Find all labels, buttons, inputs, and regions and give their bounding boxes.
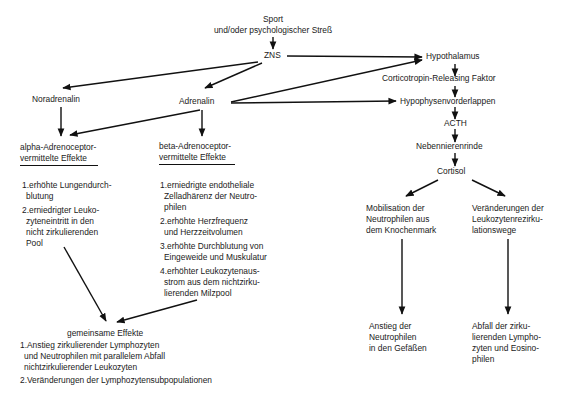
node-hypothalamus: Hypothalamus <box>426 51 480 62</box>
node-crf: Corticotropin-Releasing Faktor <box>382 73 496 84</box>
trigger-line-1: Sport <box>210 14 336 25</box>
beta-effect-4: 4.erhöhter Leukozytenaus- strom aus dem … <box>160 266 290 299</box>
edge-alpha-gemeinsam <box>64 247 106 321</box>
common-effect-2-line-1: Veränderungen der Lymphozytensubpopulati… <box>27 375 212 385</box>
trigger-line-2: und/oder psychologischer Streß <box>210 25 336 36</box>
rezirkulation-line-2: Leukozytenrezirku- <box>472 214 544 225</box>
node-cortisol: Cortisol <box>437 166 465 177</box>
abfall-line-3: zyten und Eosino- <box>472 343 541 354</box>
alpha-effect-1-num: 1. <box>22 180 29 190</box>
beta-effect-2-line-1: erhöhte Herzfrequenz <box>167 216 248 226</box>
edge-zns-hypothalamus <box>287 56 422 57</box>
alpha-effect-2-line-4: Pool <box>22 238 122 249</box>
beta-effect-4-line-2: strom aus dem nichtzirku- <box>160 277 290 288</box>
rezirkulation-line-3: lationswege <box>472 225 544 236</box>
common-effect-2-num: 2. <box>20 375 27 385</box>
beta-effect-1-num: 1. <box>160 180 167 190</box>
edge-cortisol-mobilisation <box>406 180 438 196</box>
abfall-line-2: lierenden Lympho- <box>472 332 541 343</box>
beta-header-line-1: beta-Adrenoceptor- <box>159 141 235 152</box>
node-nnr: Nebennierenrinde <box>416 141 483 152</box>
beta-effect-3: 3.erhöhte Durchblutung von Eingeweide un… <box>160 241 290 263</box>
abfall-line-1: Abfall der zirku- <box>472 321 541 332</box>
alpha-effect-1-line-2: blutung <box>22 191 122 202</box>
anstieg-line-2: Neutrophilen <box>369 332 427 343</box>
alpha-effect-1-line-1: erhöhte Lungendurch- <box>29 180 111 190</box>
alpha-effects-list: 1.erhöhte Lungendurch- blutung 2.erniedr… <box>22 180 122 252</box>
alpha-header-line-1: alpha-Adrenoceptor- <box>20 142 98 153</box>
node-hvl: Hypophysenvorderlappen <box>400 96 495 107</box>
alpha-effect-2-num: 2. <box>22 205 29 215</box>
alpha-header-line-2: vermittelte Effekte <box>20 153 98 164</box>
common-effect-1-line-3: nichtzirkulierender Leukozyten <box>20 362 250 373</box>
mobilisation-line-1: Mobilisation der <box>366 203 436 214</box>
node-zns: ZNS <box>264 50 281 61</box>
beta-effect-1: 1.erniedrigte endotheliale Zelladhärenz … <box>160 180 290 213</box>
alpha-effect-2-line-3: nicht zirkulierenden <box>22 227 122 238</box>
common-effect-1-line-1: Anstieg zirkulierender Lymphozyten <box>27 340 159 350</box>
node-beta-header: beta-Adrenoceptor- vermittelte Effekte <box>159 141 235 165</box>
anstieg-line-3: in den Gefäßen <box>369 343 427 354</box>
beta-effect-1-line-1: erniedrigte endotheliale <box>167 180 254 190</box>
edge-adrenalin-alpha <box>70 110 200 135</box>
beta-effect-3-num: 3. <box>160 241 167 251</box>
common-effect-2: 2.Veränderungen der Lymphozytensubpopula… <box>20 375 250 386</box>
beta-effect-2-line-2: und Herzzeitvolumen <box>160 227 290 238</box>
beta-effect-2: 2.erhöhte Herzfrequenz und Herzzeitvolum… <box>160 216 290 238</box>
common-effect-1: 1.Anstieg zirkulierender Lymphozyten und… <box>20 340 250 373</box>
common-effect-1-num: 1. <box>20 340 27 350</box>
beta-effects-list: 1.erniedrigte endotheliale Zelladhärenz … <box>160 180 290 302</box>
edge-beta-gemeinsam <box>117 300 197 322</box>
node-mobilisation: Mobilisation der Neutrophilen aus dem Kn… <box>366 203 436 236</box>
beta-effect-3-line-2: Eingeweide und Muskulatur <box>160 252 290 263</box>
beta-effect-3-line-1: erhöhte Durchblutung von <box>167 241 263 251</box>
node-adrenalin: Adrenalin <box>179 96 214 107</box>
node-abfall: Abfall der zirku- lierenden Lympho- zyte… <box>472 321 541 365</box>
beta-effect-1-line-3: philen <box>160 202 290 213</box>
node-acth: ACTH <box>444 118 467 129</box>
common-effects-list: 1.Anstieg zirkulierender Lymphozyten und… <box>20 340 250 389</box>
node-rezirkulation: Veränderungen der Leukozytenrezirku- lat… <box>472 203 544 236</box>
beta-effect-1-line-2: Zelladhärenz der Neutro- <box>160 191 290 202</box>
mobilisation-line-3: dem Knochenmark <box>366 225 436 236</box>
node-trigger: Sport und/oder psychologischer Streß <box>210 14 336 36</box>
alpha-effect-1: 1.erhöhte Lungendurch- blutung <box>22 180 122 202</box>
rezirkulation-line-1: Veränderungen der <box>472 203 544 214</box>
alpha-effect-2-line-2: zyteneintritt in den <box>22 216 122 227</box>
alpha-effect-2: 2.erniedrigter Leuko- zyteneintritt in d… <box>22 205 122 249</box>
common-effects-title: gemeinsame Effekte <box>67 328 143 339</box>
edge-adrenalin-hvl <box>231 101 396 103</box>
edge-zns-adrenalin <box>205 63 262 88</box>
common-effect-1-line-2: und Neutrophilen mit parallelem Abfall <box>20 351 250 362</box>
beta-effect-4-line-1: erhöhter Leukozytenaus- <box>167 266 260 276</box>
abfall-line-4: philen <box>472 354 541 365</box>
edge-cortisol-rezirkulation <box>472 180 505 196</box>
node-anstieg: Anstieg der Neutrophilen in den Gefäßen <box>369 321 427 354</box>
beta-header-line-2: vermittelte Effekte <box>159 152 235 163</box>
node-alpha-header: alpha-Adrenoceptor- vermittelte Effekte <box>20 142 98 166</box>
mobilisation-line-2: Neutrophilen aus <box>366 214 436 225</box>
beta-effect-2-num: 2. <box>160 216 167 226</box>
anstieg-line-1: Anstieg der <box>369 321 427 332</box>
beta-effect-4-line-3: lierenden Milzpool <box>160 288 290 299</box>
alpha-effect-2-line-1: erniedrigter Leuko- <box>29 205 99 215</box>
beta-effect-4-num: 4. <box>160 266 167 276</box>
edge-zns-noradrenalin <box>63 62 258 88</box>
node-noradrenalin: Noradrenalin <box>32 94 80 105</box>
